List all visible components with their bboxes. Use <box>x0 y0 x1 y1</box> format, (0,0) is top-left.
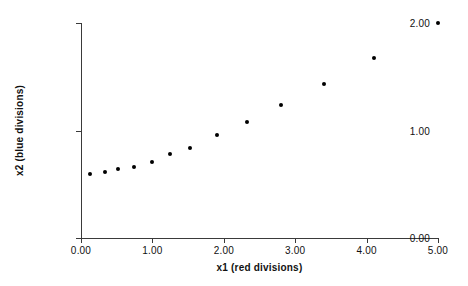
y-axis-title: x2 (blue divisions) <box>14 23 28 238</box>
data-point <box>436 21 440 25</box>
x-axis-title: x1 (red divisions) <box>81 262 438 273</box>
x-tick-label: 5.00 <box>428 245 448 256</box>
data-point <box>103 170 107 174</box>
data-point <box>372 56 376 60</box>
x-tick-label: 0.00 <box>71 245 91 256</box>
y-tick-label: 1.00 <box>410 125 430 136</box>
x-axis-line <box>81 238 438 239</box>
data-point <box>116 167 120 171</box>
x-tick-mark <box>224 238 225 243</box>
scatter-plot-figure: x2 (blue divisions) x1 (red divisions) 0… <box>0 0 468 286</box>
x-tick-label: 3.00 <box>285 245 305 256</box>
y-tick-mark <box>76 131 81 132</box>
data-point <box>188 146 192 150</box>
y-tick-mark <box>76 23 81 24</box>
plot-area: 0.001.002.00 0.001.002.003.004.005.00 <box>81 23 438 238</box>
x-tick-label: 1.00 <box>142 245 162 256</box>
data-point <box>132 165 136 169</box>
data-point <box>215 133 219 137</box>
x-tick-label: 4.00 <box>356 245 376 256</box>
data-point <box>150 160 154 164</box>
x-tick-mark <box>152 238 153 243</box>
x-tick-label: 2.00 <box>214 245 234 256</box>
x-tick-mark <box>295 238 296 243</box>
data-point <box>322 82 326 86</box>
x-tick-mark <box>81 238 82 243</box>
data-point <box>168 152 172 156</box>
y-tick-label: 0.00 <box>410 233 430 244</box>
data-point <box>245 120 249 124</box>
data-point <box>88 172 92 176</box>
y-axis-line <box>81 23 82 238</box>
x-tick-mark <box>367 238 368 243</box>
data-point <box>279 103 283 107</box>
x-tick-mark <box>438 238 439 243</box>
y-tick-label: 2.00 <box>410 18 430 29</box>
